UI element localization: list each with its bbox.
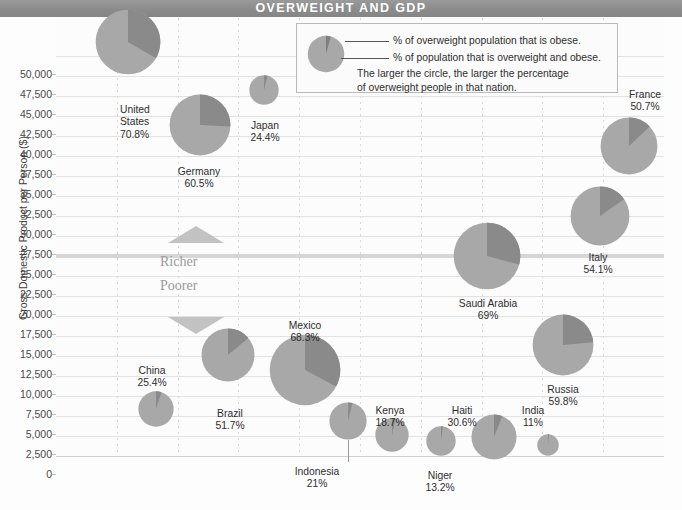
- country-label-line: Saudi Arabia: [459, 298, 517, 310]
- country-label-line: Mexico: [289, 320, 322, 332]
- country-label-line: States: [120, 116, 150, 128]
- country-label-line: 24.4%: [250, 132, 279, 144]
- country-label-line: 21%: [295, 478, 340, 490]
- country-label-line: United: [120, 104, 150, 116]
- country-label-line: India: [522, 405, 544, 417]
- bubble-saudi-arabia: [453, 222, 521, 290]
- pie-glyph: [453, 222, 521, 290]
- pie-glyph: [570, 186, 630, 246]
- y-axis-title: Gross Domestic Product per Person ($): [17, 113, 29, 343]
- pie-glyph: [249, 75, 279, 105]
- pie-glyph: [329, 402, 367, 440]
- country-label-line: 69%: [459, 310, 517, 322]
- label-france: France50.7%: [629, 89, 661, 114]
- bubble-haiti: [471, 414, 517, 460]
- grid-line: [56, 456, 664, 457]
- legend-pie-icon: [307, 35, 345, 73]
- bubble-brazil: [201, 328, 255, 382]
- label-leader-line: [348, 440, 349, 462]
- pie-glyph: [169, 94, 231, 156]
- country-label-line: 18.7%: [375, 417, 404, 429]
- country-label-line: 60.5%: [178, 178, 220, 190]
- y-axis-tick-label: 10,000: [0, 388, 52, 400]
- country-label-line: Brazil: [215, 408, 244, 420]
- country-label-line: 13.2%: [425, 482, 454, 494]
- bubble-russia: [532, 314, 594, 376]
- pie-glyph: [95, 9, 161, 75]
- pie-glyph: [201, 328, 255, 382]
- label-russia: Russia59.8%: [547, 384, 578, 409]
- richer-poorer-annotation: Richer Poorer: [160, 226, 230, 334]
- label-niger: Niger13.2%: [425, 470, 454, 495]
- country-label-line: Italy: [583, 252, 612, 264]
- label-haiti: Haiti30.6%: [447, 405, 476, 430]
- country-label-line: 50.7%: [629, 101, 661, 113]
- pie-glyph: [537, 434, 559, 456]
- legend-leader-2: [341, 58, 389, 59]
- bubble-france: [600, 117, 658, 175]
- country-label-line: Haiti: [447, 405, 476, 417]
- label-indonesia: Indonesia21%: [295, 466, 340, 491]
- bubble-japan: [249, 75, 279, 105]
- country-label-line: Kenya: [375, 405, 404, 417]
- y-axis-tick-mark: [52, 474, 56, 475]
- country-label-line: Japan: [250, 120, 279, 132]
- country-label-line: 11%: [522, 417, 544, 429]
- legend-text-4: of overweight people in that nation.: [357, 82, 517, 93]
- chart-legend: % of overweight population that is obese…: [296, 23, 618, 93]
- country-label-line: 70.8%: [120, 129, 150, 141]
- label-india: India11%: [522, 405, 544, 430]
- pie-glyph: [138, 391, 174, 427]
- label-germany: Germany60.5%: [178, 166, 220, 191]
- legend-text-3: The larger the circle, the larger the pe…: [357, 68, 569, 79]
- y-axis-tick-label: 50,000: [0, 68, 52, 80]
- y-axis-tick-label: 2,500: [0, 448, 52, 460]
- country-label-line: Indonesia: [295, 466, 340, 478]
- country-label-line: Russia: [547, 384, 578, 396]
- bubble-united-states: [95, 9, 161, 75]
- bubble-china: [138, 391, 174, 427]
- bubble-india: [537, 434, 559, 456]
- legend-text-2: % of population that is overweight and o…: [393, 52, 601, 63]
- country-label-line: 59.8%: [547, 396, 578, 408]
- pie-glyph: [600, 117, 658, 175]
- label-saudi-arabia: Saudi Arabia69%: [459, 298, 517, 323]
- richer-label: Richer: [160, 254, 230, 270]
- arrow-up-icon: [168, 226, 224, 243]
- label-brazil: Brazil51.7%: [215, 408, 244, 433]
- country-label-line: China: [137, 365, 166, 377]
- y-axis-tick-label: 7,500: [0, 408, 52, 420]
- bubble-indonesia: [329, 402, 367, 440]
- bubble-italy: [570, 186, 630, 246]
- legend-leader-1: [345, 41, 389, 42]
- y-axis-tick-label: 15,000: [0, 348, 52, 360]
- country-label-line: 30.6%: [447, 417, 476, 429]
- country-label-line: Germany: [178, 166, 220, 178]
- country-label-line: France: [629, 89, 661, 101]
- label-japan: Japan24.4%: [250, 120, 279, 145]
- bubble-germany: [169, 94, 231, 156]
- pie-glyph: [426, 426, 456, 456]
- label-italy: Italy54.1%: [583, 252, 612, 277]
- country-label-line: 25.4%: [137, 377, 166, 389]
- country-label-line: 68.3%: [289, 332, 322, 344]
- chart-root: OVERWEIGHT AND GDP 50,00047,50045,00042,…: [0, 0, 682, 510]
- arrow-down-icon: [168, 317, 224, 334]
- label-mexico: Mexico68.3%: [289, 320, 322, 345]
- label-china: China25.4%: [137, 365, 166, 390]
- bubble-niger: [426, 426, 456, 456]
- country-label-line: Niger: [425, 470, 454, 482]
- y-axis-tick-label: 5,000: [0, 428, 52, 440]
- country-label-line: 51.7%: [215, 420, 244, 432]
- grid-line-vertical: [117, 18, 118, 456]
- y-axis-tick-label: 0: [0, 468, 52, 480]
- pie-glyph: [532, 314, 594, 376]
- legend-text-1: % of overweight population that is obese…: [393, 35, 581, 46]
- y-axis-tick-label: 12,500: [0, 368, 52, 380]
- grid-line-vertical: [238, 18, 239, 456]
- y-axis-tick-label: 47,500: [0, 88, 52, 100]
- pie-glyph: [471, 414, 517, 460]
- label-united-states: UnitedStates70.8%: [120, 104, 150, 141]
- label-kenya: Kenya18.7%: [375, 405, 404, 430]
- country-label-line: 54.1%: [583, 264, 612, 276]
